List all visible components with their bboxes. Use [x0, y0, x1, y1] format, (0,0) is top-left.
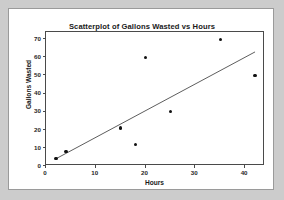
scatter-point — [144, 56, 147, 59]
y-tick-mark — [43, 38, 46, 39]
scatter-point — [119, 126, 122, 129]
regression-line — [46, 32, 265, 166]
y-tick-mark — [43, 111, 46, 112]
y-tick-mark — [43, 129, 46, 130]
y-tick-label: 60 — [17, 53, 41, 60]
x-tick-mark — [244, 165, 245, 168]
x-tick-label: 0 — [35, 169, 55, 176]
x-tick-mark — [145, 165, 146, 168]
scatter-point — [253, 74, 256, 77]
chart-title: Scatterplot of Gallons Wasted vs Hours — [9, 22, 275, 31]
y-tick-label: 0 — [17, 162, 41, 169]
x-tick-label: 10 — [85, 169, 105, 176]
y-tick-label: 10 — [17, 144, 41, 151]
x-tick-mark — [45, 165, 46, 168]
x-axis-title: Hours — [45, 179, 264, 186]
y-tick-mark — [43, 93, 46, 94]
plot-area — [45, 31, 264, 165]
screenshot-frame: Scatterplot of Gallons Wasted vs Hours G… — [0, 0, 284, 200]
y-tick-label: 50 — [17, 71, 41, 78]
scatter-point — [169, 110, 172, 113]
y-tick-label: 20 — [17, 126, 41, 133]
y-tick-mark — [43, 74, 46, 75]
x-tick-label: 20 — [135, 169, 155, 176]
y-tick-mark — [43, 56, 46, 57]
scatter-point — [64, 150, 67, 153]
chart-card: Scatterplot of Gallons Wasted vs Hours G… — [8, 8, 274, 190]
scatter-point — [134, 143, 137, 146]
x-tick-mark — [95, 165, 96, 168]
scatter-point — [219, 38, 222, 41]
y-tick-label: 30 — [17, 107, 41, 114]
x-tick-mark — [194, 165, 195, 168]
y-tick-label: 70 — [17, 35, 41, 42]
x-tick-label: 30 — [184, 169, 204, 176]
y-tick-mark — [43, 147, 46, 148]
scatter-point — [54, 157, 57, 160]
x-tick-label: 40 — [234, 169, 254, 176]
y-tick-label: 40 — [17, 89, 41, 96]
